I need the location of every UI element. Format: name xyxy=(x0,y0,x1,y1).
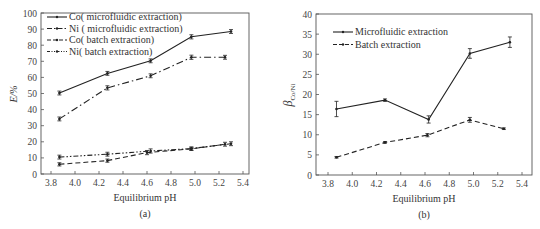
x-tick-label: 3.8 xyxy=(322,179,334,189)
data-point xyxy=(384,99,387,102)
y-tick-label: 10 xyxy=(303,130,313,140)
legend-entry: Ni ( microfluidic extraction) xyxy=(47,23,183,35)
legend-label: Ni ( microfluidic extraction) xyxy=(69,23,183,35)
y-tick-label: 50 xyxy=(28,89,38,99)
data-point xyxy=(58,118,61,121)
y-axis-label: E/% xyxy=(8,85,19,103)
data-point xyxy=(224,56,227,59)
data-point xyxy=(230,142,233,145)
data-point xyxy=(58,92,61,95)
y-tick-label: 90 xyxy=(28,25,38,35)
legend-label: Microfluidic extraction xyxy=(355,26,448,37)
y-tick-label: 20 xyxy=(303,90,313,100)
x-tick-label: 4.0 xyxy=(346,179,358,189)
x-tick-label: 4.6 xyxy=(419,179,431,189)
chart-caption: (b) xyxy=(418,209,430,221)
x-tick-label: 4.2 xyxy=(93,178,105,188)
x-tick-label: 5.2 xyxy=(492,179,504,189)
y-tick-label: 5 xyxy=(307,150,312,160)
y-tick-label: 10 xyxy=(28,153,38,163)
series-co-batch-extraction xyxy=(57,142,227,166)
legend-label: Batch extraction xyxy=(355,39,421,50)
series-ni-microfluidic-extraction xyxy=(57,55,227,121)
y-tick-label: 100 xyxy=(23,9,38,19)
data-point xyxy=(58,156,61,159)
data-point xyxy=(469,52,472,55)
data-point xyxy=(149,150,152,153)
data-point xyxy=(190,147,193,150)
data-point xyxy=(469,119,472,122)
y-tick-label: 70 xyxy=(28,57,38,67)
x-tick-label: 4.8 xyxy=(443,179,455,189)
data-point xyxy=(106,87,109,90)
y-tick-label: 40 xyxy=(28,105,38,115)
x-tick-label: 4.8 xyxy=(165,178,177,188)
data-point xyxy=(58,163,61,166)
data-point xyxy=(149,74,152,77)
y-tick-label: 20 xyxy=(28,137,38,147)
legend-label: Co( batch extraction) xyxy=(69,34,154,46)
data-point xyxy=(509,41,512,44)
data-point xyxy=(503,127,506,130)
y-tick-label: 25 xyxy=(303,70,313,80)
data-point xyxy=(384,141,387,144)
data-point xyxy=(190,36,193,39)
data-point xyxy=(190,56,193,59)
chart-b-separation-factor: 05101520253035403.84.04.24.44.64.85.05.2… xyxy=(281,10,532,222)
series-batch-extraction xyxy=(334,117,505,158)
legend-label: Ni( batch extraction) xyxy=(69,46,152,58)
data-point xyxy=(230,30,233,33)
legend-entry: Microfluidic extraction xyxy=(333,26,448,37)
chart-a-extraction-efficiency: 01020304050607080901003.84.04.24.44.64.8… xyxy=(8,9,249,221)
series-microfluidic-extraction xyxy=(334,37,511,123)
data-point xyxy=(106,72,109,75)
data-point xyxy=(427,118,430,121)
y-tick-label: 30 xyxy=(303,50,313,60)
legend-entry: Ni( batch extraction) xyxy=(47,46,152,58)
y-tick-label: 35 xyxy=(303,30,313,40)
data-point xyxy=(335,156,338,159)
x-tick-label: 5.2 xyxy=(213,178,225,188)
data-point xyxy=(149,60,152,63)
legend-entry: Batch extraction xyxy=(333,39,421,50)
x-tick-label: 4.2 xyxy=(371,179,383,189)
y-tick-label: 40 xyxy=(303,10,313,20)
data-point xyxy=(106,153,109,156)
data-point xyxy=(335,108,338,111)
data-point xyxy=(426,134,429,137)
y-tick-label: 0 xyxy=(307,171,312,181)
y-axis-label: βCo/Ni xyxy=(281,83,297,107)
x-tick-label: 4.4 xyxy=(117,178,129,188)
x-tick-label: 5.0 xyxy=(189,178,201,188)
x-tick-label: 5.4 xyxy=(237,178,249,188)
legend-label: Co( microfluidic extraction) xyxy=(69,11,182,23)
y-tick-label: 80 xyxy=(28,41,38,51)
x-axis-label: Equilibrium pH xyxy=(392,193,455,204)
plot-frame xyxy=(316,14,532,175)
y-tick-label: 0 xyxy=(32,170,37,180)
legend-entry: Co( batch extraction) xyxy=(47,34,154,46)
x-tick-label: 4.6 xyxy=(141,178,153,188)
data-point xyxy=(106,159,109,162)
y-tick-label: 15 xyxy=(303,110,313,120)
y-tick-label: 60 xyxy=(28,73,38,83)
x-tick-label: 5.0 xyxy=(468,179,480,189)
x-tick-label: 4.0 xyxy=(69,178,81,188)
x-tick-label: 3.8 xyxy=(45,178,57,188)
x-axis-label: Equilibrium pH xyxy=(113,192,176,203)
x-tick-label: 5.4 xyxy=(516,179,528,189)
chart-caption: (a) xyxy=(139,208,150,220)
x-tick-label: 4.4 xyxy=(395,179,407,189)
figure: 01020304050607080901003.84.04.24.44.64.8… xyxy=(0,0,540,229)
y-tick-label: 30 xyxy=(28,121,38,131)
